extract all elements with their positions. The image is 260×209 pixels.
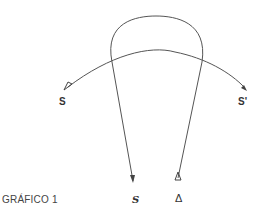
triangle-start-icon	[64, 82, 72, 90]
arrowhead-icon	[130, 175, 135, 183]
arc-curve	[68, 50, 245, 88]
label-delta: Δ	[175, 192, 182, 204]
figure-caption: GRÁFICO 1	[2, 194, 58, 205]
arrowhead-end-icon	[241, 85, 247, 91]
diagram-canvas	[0, 0, 260, 209]
label-s-prime: S'	[238, 96, 247, 107]
label-s: S	[59, 96, 66, 107]
label-s-bottom: S	[132, 194, 139, 205]
loop-curve	[111, 16, 203, 181]
